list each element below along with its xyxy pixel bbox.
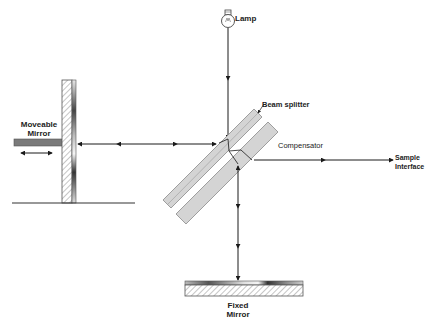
mirror-rod <box>14 139 64 146</box>
sample-interface-label-line1: Sample <box>395 153 424 162</box>
moveable-mirror <box>12 80 135 203</box>
lamp-icon <box>222 10 235 28</box>
fixed-mirror-label-line1: Fixed <box>222 301 254 310</box>
fixed-mirror <box>185 281 303 296</box>
sample-interface-label-line2: Interface <box>395 162 424 171</box>
moveable-mirror-label-line2: Mirror <box>14 129 64 138</box>
lamp-label: Lamp <box>235 14 256 23</box>
fixed-mirror-label: Fixed Mirror <box>222 301 254 319</box>
moveable-mirror-label-line1: Moveable <box>14 120 64 129</box>
interferometer-diagram <box>0 0 439 328</box>
moveable-mirror-label: Moveable Mirror <box>14 120 64 138</box>
fixed-mirror-label-line2: Mirror <box>222 310 254 319</box>
compensator-label: Compensator <box>278 141 323 150</box>
sample-interface-label: Sample Interface <box>395 153 424 171</box>
beam-splitter-label: Beam splitter <box>262 100 310 109</box>
